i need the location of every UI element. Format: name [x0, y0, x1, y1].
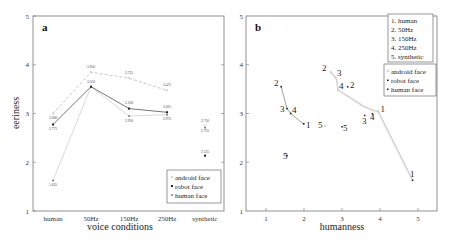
val-android-250hz: 3.475 [163, 83, 171, 87]
val-android-synthetic: 2.750 [201, 119, 209, 123]
b-legend-robot-marker [387, 80, 389, 82]
y-tick-1: 1 [26, 208, 30, 216]
val-android-human: 3.000 [49, 116, 57, 120]
b-y-tick-4: 4 [240, 61, 244, 69]
y-tick-4: 4 [26, 61, 30, 69]
val-android-150hz: 3.725 [125, 71, 133, 75]
b-human-1: 1 [410, 169, 415, 179]
val-human-synthetic: 2.725 [201, 129, 209, 133]
y-tick-2: 2 [26, 159, 30, 167]
panel-b-label: b [255, 21, 261, 33]
b-android-2: 2 [322, 63, 327, 73]
b-human-2: 2 [350, 80, 355, 90]
robot-face-line [53, 87, 167, 125]
b-x-tick-2: 2 [302, 215, 306, 223]
y-axis-label: eeriness [10, 97, 21, 129]
b-y-tick-3: 3 [240, 110, 244, 118]
cond-1: 1. human [391, 17, 418, 25]
x-axis-label: voice conditions [87, 221, 153, 232]
x-cat-synthetic: synthetic [192, 215, 217, 223]
val-human-250hz: 2.975 [163, 117, 171, 121]
panel-a-legend: android face robot face human face [167, 170, 221, 203]
val-robot-250hz: 3.025 [163, 105, 171, 109]
legend-human: human face [175, 192, 207, 200]
y-tick-3: 3 [26, 110, 30, 118]
b-x-tick-4: 4 [378, 215, 382, 223]
legend-robot: robot face [175, 183, 203, 191]
panel-b: 5 4 3 2 1 1 2 3 4 5 humanness b 1 2 3 4 … [240, 13, 438, 232]
panel-a-label: a [42, 21, 48, 33]
cond-2: 2. 50Hz [391, 26, 413, 34]
figure: 5 4 3 2 1 eeriness a human 50Hz 150Hz 25… [0, 0, 453, 243]
b-robot-5: 5 [283, 151, 288, 161]
b-y-tick-5: 5 [240, 13, 244, 21]
val-human-150hz: 2.950 [125, 119, 133, 123]
cond-5: 5. synthetic [391, 53, 423, 61]
legend-android-marker [171, 176, 173, 178]
b-x-axis-label: humanness [320, 221, 365, 232]
b-legend-human-marker [387, 89, 389, 91]
legend-human-marker [171, 194, 173, 196]
b-human-markers [341, 86, 413, 181]
b-human-4: 4 [370, 112, 375, 122]
b-y-tick-2: 2 [240, 159, 244, 167]
b-human-5: 5 [343, 123, 348, 133]
b-android-3: 3 [337, 68, 342, 78]
b-robot-4: 4 [292, 105, 297, 115]
b-human-3: 3 [362, 116, 367, 126]
val-android-50hz: 3.850 [87, 65, 95, 69]
human-face-line [53, 87, 167, 181]
b-robot-2: 2 [274, 78, 279, 88]
x-cat-250hz: 250Hz [158, 215, 177, 223]
legend-android: android face [175, 174, 210, 182]
val-human-human: 1.625 [49, 183, 57, 187]
panel-a: 5 4 3 2 1 eeriness a human 50Hz 150Hz 25… [10, 13, 224, 232]
b-y-tick-1: 1 [240, 208, 244, 216]
b-legend-android-marker [387, 70, 389, 72]
legend-robot-marker [171, 185, 173, 187]
b-robot-3: 3 [280, 104, 285, 114]
b-legend-android: android face [391, 68, 426, 76]
b-x-tick-5: 5 [416, 215, 420, 223]
b-face-legend: android face robot face human face [384, 64, 436, 96]
val-robot-synthetic: 2.125 [201, 150, 209, 154]
cond-4: 4. 250Hz [391, 44, 417, 52]
cond-3: 3. 150Hz [391, 35, 417, 43]
val-robot-human: 2.775 [49, 127, 57, 131]
b-condition-legend: 1. human 2. 50Hz 3. 150Hz 4. 250Hz 5. sy… [388, 14, 433, 62]
b-legend-robot: robot face [391, 77, 419, 85]
b-legend-human: human face [391, 86, 423, 94]
y-tick-5: 5 [26, 13, 30, 21]
b-android-4: 4 [339, 81, 344, 91]
b-robot-1: 1 [306, 120, 311, 130]
val-robot-150hz: 3.100 [125, 101, 133, 105]
val-robot-50hz: 3.550 [87, 80, 95, 84]
b-android-1: 1 [381, 104, 386, 114]
x-cat-human: human [43, 215, 63, 223]
b-x-tick-1: 1 [264, 215, 268, 223]
b-android-5: 5 [318, 120, 323, 130]
